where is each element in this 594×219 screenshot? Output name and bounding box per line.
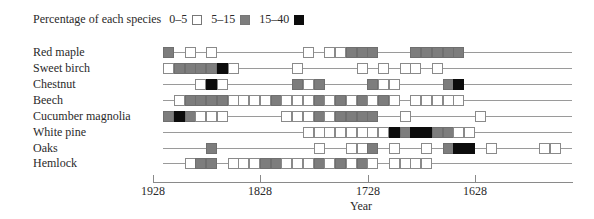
data-cell (367, 143, 378, 154)
data-cell (464, 127, 475, 138)
legend-item-low: 0–5 (169, 12, 202, 27)
data-cell (421, 95, 432, 106)
data-cell (453, 79, 464, 90)
data-cell (389, 95, 400, 106)
data-cell (346, 47, 357, 58)
data-cell (206, 158, 217, 169)
data-cell (335, 158, 346, 169)
tick-label: 1828 (248, 184, 272, 199)
data-cell (389, 127, 400, 138)
species-label: Oaks (33, 141, 58, 155)
data-cell (378, 95, 389, 106)
data-cell (389, 79, 400, 90)
tick-mark (475, 175, 476, 182)
data-cell (410, 95, 421, 106)
data-cell (206, 111, 217, 122)
species-label: Chestnut (33, 77, 76, 91)
data-cell (410, 63, 421, 74)
legend-swatch-black (294, 15, 304, 25)
data-cell (163, 63, 174, 74)
data-cell (324, 95, 335, 106)
data-cell (163, 47, 174, 58)
data-cell (367, 111, 378, 122)
data-cell (346, 158, 357, 169)
data-cell (238, 95, 249, 106)
data-cell (550, 143, 561, 154)
data-cell (367, 158, 378, 169)
data-cell (400, 111, 411, 122)
data-cell (432, 63, 443, 74)
data-cell (303, 111, 314, 122)
data-cell (281, 95, 292, 106)
data-cell (217, 79, 228, 90)
species-label: White pine (33, 125, 86, 139)
data-cell (281, 111, 292, 122)
data-cell (217, 63, 228, 74)
legend-item-mid: 5–15 (211, 12, 250, 27)
data-cell (410, 127, 421, 138)
data-cell (303, 158, 314, 169)
data-cell (206, 143, 217, 154)
data-cell (292, 79, 303, 90)
data-cell (303, 95, 314, 106)
data-cell (217, 95, 228, 106)
tick-mark (260, 175, 261, 182)
legend-item-high: 15–40 (259, 12, 304, 27)
data-cell (378, 127, 389, 138)
data-cell (464, 143, 475, 154)
data-cell (195, 95, 206, 106)
data-cell (228, 63, 239, 74)
data-cell (324, 127, 335, 138)
data-cell (260, 158, 271, 169)
legend-label: 5–15 (211, 12, 235, 27)
data-cell (249, 158, 260, 169)
data-cell (378, 63, 389, 74)
legend-label: 15–40 (259, 12, 289, 27)
data-cell (432, 127, 443, 138)
data-cell (292, 63, 303, 74)
data-cell (346, 143, 357, 154)
data-cell (367, 79, 378, 90)
data-cell (389, 158, 400, 169)
data-cell (432, 47, 443, 58)
data-cell (389, 143, 400, 154)
tick-label: 1728 (356, 184, 380, 199)
x-axis-label: Year (350, 199, 372, 214)
legend-title: Percentage of each species (33, 12, 161, 27)
data-cell (453, 95, 464, 106)
data-cell (206, 95, 217, 106)
tick-mark (153, 175, 154, 182)
data-cell (303, 47, 314, 58)
data-cell (335, 127, 346, 138)
data-cell (453, 143, 464, 154)
data-cell (432, 95, 443, 106)
data-cell (185, 47, 196, 58)
data-cell (174, 63, 185, 74)
data-cell (292, 95, 303, 106)
data-cell (367, 127, 378, 138)
data-cell (335, 111, 346, 122)
legend: Percentage of each species 0–5 5–15 15–4… (33, 12, 313, 27)
data-cell (206, 79, 217, 90)
data-cell (421, 127, 432, 138)
data-cell (260, 95, 271, 106)
species-label: Hemlock (33, 156, 77, 170)
species-label: Cucumber magnolia (33, 109, 131, 123)
data-cell (346, 127, 357, 138)
data-cell (195, 111, 206, 122)
data-cell (421, 47, 432, 58)
data-cell (410, 158, 421, 169)
data-cell (453, 47, 464, 58)
data-cell (346, 111, 357, 122)
species-label: Red maple (33, 45, 85, 59)
species-label: Beech (33, 93, 63, 107)
data-cell (303, 127, 314, 138)
data-cell (421, 143, 432, 154)
data-cell (475, 111, 486, 122)
data-cell (195, 158, 206, 169)
data-cell (238, 158, 249, 169)
tick-mark (368, 175, 369, 182)
data-cell (539, 143, 550, 154)
data-cell (292, 111, 303, 122)
legend-swatch-gray (240, 15, 250, 25)
